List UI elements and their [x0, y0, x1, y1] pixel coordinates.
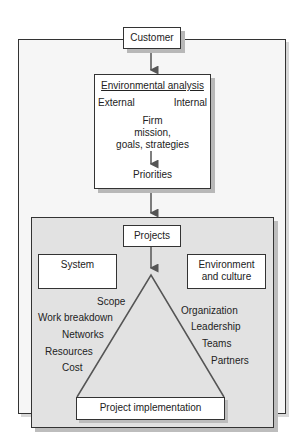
scope-label: Scope — [97, 296, 125, 308]
teams-label: Teams — [202, 338, 231, 350]
projects-box: Projects — [123, 225, 181, 247]
firm-label: Firm — [95, 115, 210, 127]
connector-lines — [0, 0, 301, 447]
goals-strategies-label: goals, strategies — [95, 139, 210, 151]
project-implementation-box: Project implementation — [76, 397, 225, 420]
external-label: External — [98, 97, 135, 109]
environment-label: Environment — [188, 259, 265, 271]
cost-label: Cost — [62, 362, 83, 374]
culture-label: and culture — [188, 271, 265, 283]
priorities-label: Priorities — [95, 169, 210, 181]
internal-label: Internal — [174, 97, 207, 109]
project-implementation-label: Project implementation — [77, 402, 224, 414]
system-label: System — [39, 259, 116, 271]
mission-label: mission, — [95, 127, 210, 139]
customer-label: Customer — [124, 32, 180, 44]
system-box: System — [38, 254, 117, 289]
work-breakdown-label: Work breakdown — [38, 312, 113, 324]
customer-box: Customer — [123, 27, 181, 49]
projects-label: Projects — [124, 230, 180, 242]
organization-label: Organization — [181, 305, 238, 317]
resources-label: Resources — [45, 346, 93, 358]
environmental-analysis-title: Environmental analysis — [95, 80, 210, 92]
partners-label: Partners — [211, 355, 249, 367]
environment-culture-box: Environment and culture — [187, 254, 266, 289]
networks-label: Networks — [62, 329, 104, 341]
environmental-analysis-box: Environmental analysis External Internal… — [94, 74, 211, 189]
leadership-label: Leadership — [191, 321, 240, 333]
